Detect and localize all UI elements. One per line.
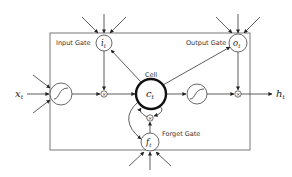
cell-to-input-gate-arrow [111, 50, 141, 82]
input-gate-incoming-arrows [82, 14, 126, 33]
output-gate-node: ot [229, 34, 247, 52]
cell-to-output-gate-arrow [163, 47, 230, 85]
forget-gate-label: Forget Gate [162, 130, 200, 138]
svg-text:×: × [102, 91, 106, 97]
forget-multiply-node: × [147, 115, 153, 121]
input-incoming-arrows [27, 75, 50, 113]
cell-to-forget-gate-arrow [129, 102, 141, 139]
output-multiply-node: × [235, 91, 241, 97]
input-sigmoid-node [50, 83, 72, 105]
input-symbol: xt [15, 88, 24, 100]
lstm-diagram: it Input Gate ot Output Gate × ct Cell ×… [0, 0, 292, 177]
forget-gate-incoming-arrows [129, 152, 171, 170]
input-gate-label: Input Gate [56, 39, 90, 47]
output-symbol: ht [276, 88, 285, 100]
cell-node: ct [136, 79, 166, 109]
forget-gate-node: ft [141, 133, 159, 151]
svg-text:×: × [236, 91, 240, 97]
svg-text:×: × [148, 115, 152, 121]
input-gate-node: it [96, 35, 112, 51]
output-gate-label: Output Gate [186, 39, 226, 47]
cell-label: Cell [145, 71, 157, 79]
output-tanh-node [187, 84, 207, 104]
input-multiply-node: × [101, 91, 107, 97]
output-gate-incoming-arrows [216, 14, 260, 33]
